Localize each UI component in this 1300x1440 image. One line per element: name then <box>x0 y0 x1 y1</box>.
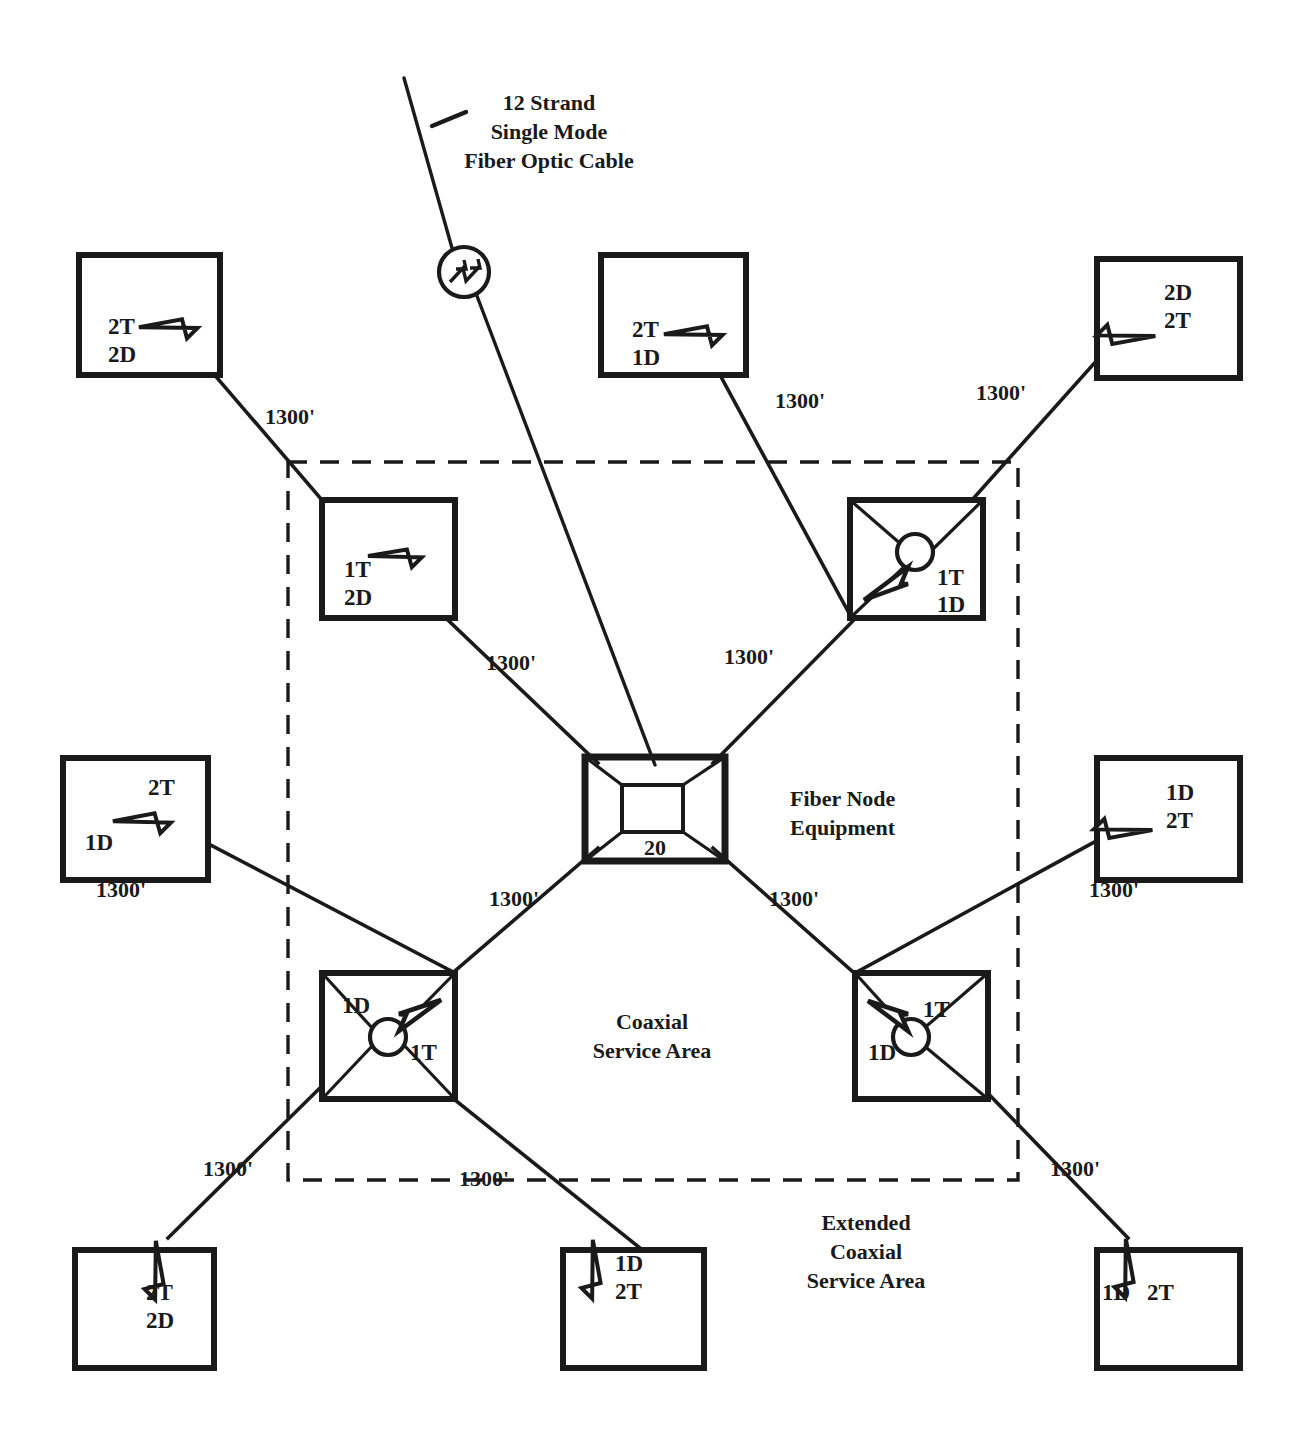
network-diagram: 20 2T 2D 2T 1D 2D 2T 1T 2D 1T 1D <box>0 0 1300 1440</box>
fiber-node-equipment-label-line1: Fiber Node <box>790 786 896 811</box>
fiber-node-equipment[interactable]: 20 <box>585 757 725 861</box>
amp-middle-left[interactable]: 2T 1D <box>63 758 208 880</box>
dist-ne-outer: 1300' <box>976 380 1026 405</box>
dist-sw-inner: 1300' <box>489 886 539 911</box>
extended-service-area-line2: Coaxial <box>830 1239 902 1264</box>
amp-inner-lower-left-label-b: 1T <box>410 1040 437 1065</box>
amp-inner-upper-right-label-b: 1D <box>937 592 965 617</box>
amp-top-left[interactable]: 2T 2D <box>79 255 220 375</box>
optical-receiver-icon <box>439 247 489 297</box>
amp-bottom-left-label-b: 2D <box>146 1308 174 1333</box>
amp-top-right-label-b: 2T <box>1164 308 1191 333</box>
fiber-cable-upper-segment <box>404 78 452 248</box>
amp-bottom-left-label-a: 2T <box>146 1280 173 1305</box>
amp-middle-left-label-a: 2T <box>148 775 175 800</box>
amp-top-middle[interactable]: 2T 1D <box>601 255 746 375</box>
coaxial-service-area-line1: Coaxial <box>616 1009 688 1034</box>
dist-se-inner: 1300' <box>769 886 819 911</box>
dist-nw-outer: 1300' <box>265 404 315 429</box>
dist-sw-outer: 1300' <box>203 1156 253 1181</box>
fiber-cable-label-line1: 12 Strand <box>503 90 595 115</box>
fiber-cable-label-line3: Fiber Optic Cable <box>464 148 634 173</box>
amp-inner-lower-right[interactable]: 1T 1D <box>855 973 988 1099</box>
dist-e-outer: 1300' <box>1089 877 1139 902</box>
fiber-node-equipment-label-line2: Equipment <box>790 815 896 840</box>
coax-n-outer <box>700 338 850 615</box>
amp-inner-upper-right-label-a: 1T <box>937 565 964 590</box>
amp-middle-right-label-a: 1D <box>1166 780 1194 805</box>
amp-top-right-label-a: 2D <box>1164 280 1192 305</box>
coax-w-outer <box>178 828 455 973</box>
amp-middle-right-label-b: 2T <box>1166 808 1193 833</box>
coaxial-service-area-line2: Service Area <box>593 1038 712 1063</box>
amp-bottom-right-label-b: 2T <box>1147 1280 1174 1305</box>
amp-bottom-middle-label-a: 1D <box>615 1251 643 1276</box>
amp-top-middle-label-a: 2T <box>632 317 659 342</box>
hfc-network-schematic: 20 2T 2D 2T 1D 2D 2T 1T 2D 1T 1D <box>0 0 1300 1440</box>
extended-service-area-line1: Extended <box>821 1210 910 1235</box>
fiber-label-leader <box>432 112 466 126</box>
amp-top-right[interactable]: 2D 2T <box>1097 259 1240 378</box>
fiber-node-number: 20 <box>644 835 666 860</box>
amp-top-middle-label-b: 1D <box>632 345 660 370</box>
dist-ne-inner: 1300' <box>724 644 774 669</box>
fiber-cable-label-line2: Single Mode <box>491 119 608 144</box>
dist-nw-inner: 1300' <box>486 650 536 675</box>
amp-inner-upper-left-label-b: 2D <box>344 585 372 610</box>
amp-inner-lower-right-label-b: 1D <box>868 1040 896 1065</box>
amp-bottom-right-label-a: 1D <box>1102 1280 1130 1305</box>
amp-middle-right[interactable]: 1D 2T <box>1094 758 1240 880</box>
amp-inner-lower-left[interactable]: 1D 1T <box>322 973 455 1099</box>
coax-e-outer <box>855 828 1120 973</box>
amp-bottom-middle-label-b: 2T <box>615 1279 642 1304</box>
amp-inner-upper-left-label-a: 1T <box>344 557 371 582</box>
amp-bottom-middle[interactable]: 1D 2T <box>563 1240 704 1368</box>
dist-n-outer: 1300' <box>775 388 825 413</box>
amp-inner-upper-right[interactable]: 1T 1D <box>850 500 983 618</box>
dist-se-outer: 1300' <box>1050 1156 1100 1181</box>
amp-middle-left-label-b: 1D <box>85 830 113 855</box>
amp-inner-lower-left-label-a: 1D <box>342 993 370 1018</box>
amp-top-left-label-b: 2D <box>108 342 136 367</box>
dist-w-outer: 1300' <box>96 877 146 902</box>
amp-inner-upper-left[interactable]: 1T 2D <box>322 500 455 618</box>
amp-bottom-right[interactable]: 1D 2T <box>1096 1239 1240 1368</box>
dist-s-outer: 1300' <box>459 1166 509 1191</box>
amp-bottom-left[interactable]: 2T 2D <box>75 1241 214 1368</box>
splitter-circle-icon <box>897 534 933 570</box>
extended-service-area-line3: Service Area <box>807 1268 926 1293</box>
amp-top-left-label-a: 2T <box>108 314 135 339</box>
amp-inner-lower-right-label-a: 1T <box>923 997 950 1022</box>
